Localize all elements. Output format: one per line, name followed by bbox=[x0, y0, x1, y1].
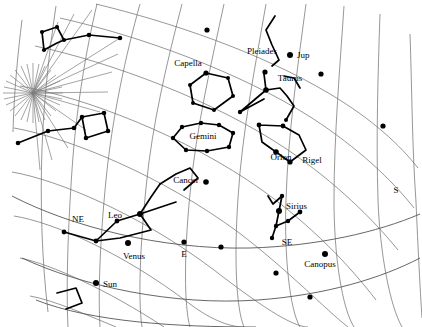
star-dot-betelgeuse bbox=[257, 123, 262, 128]
star-dot bbox=[62, 230, 67, 235]
star-dot bbox=[106, 129, 111, 134]
star-dot bbox=[307, 294, 312, 299]
star-dot bbox=[184, 148, 188, 152]
label-orion: Orion bbox=[271, 152, 292, 162]
star-dot bbox=[205, 149, 209, 153]
constellation-figures bbox=[18, 16, 306, 309]
constellation-ursa-major bbox=[18, 113, 108, 143]
star-dot-canopus bbox=[322, 251, 328, 257]
star-dot bbox=[171, 136, 175, 140]
label-leo: Leo bbox=[108, 210, 122, 220]
star-dot bbox=[318, 71, 323, 76]
star-dot bbox=[87, 33, 92, 38]
star-dot bbox=[226, 76, 230, 80]
star-dot bbox=[94, 239, 99, 244]
constellation-cassiopeia bbox=[42, 27, 64, 50]
constellation-cassiopeia-arm bbox=[64, 35, 120, 40]
label-capella: Capella bbox=[174, 58, 202, 68]
star-dot bbox=[217, 123, 221, 127]
label-gemini: Gemini bbox=[190, 131, 217, 141]
star-dot bbox=[199, 121, 203, 125]
star-dot-aldebaran bbox=[263, 87, 269, 93]
label-taurus: Taurus bbox=[278, 73, 303, 83]
star-dot-venus bbox=[125, 240, 131, 246]
star-dot bbox=[62, 38, 66, 42]
label-sun: Sun bbox=[103, 279, 118, 289]
star-dot-regulus bbox=[137, 211, 143, 217]
star-dot bbox=[72, 126, 77, 131]
sky-chart: Capella Pleiades Jup Taurus Gemini Orion… bbox=[0, 0, 422, 327]
star-dot bbox=[380, 123, 385, 128]
star-dot bbox=[218, 244, 223, 249]
star-dot bbox=[280, 194, 284, 198]
star-dot bbox=[55, 25, 59, 29]
star-dot-pleiades bbox=[262, 69, 267, 74]
star-dot bbox=[281, 124, 286, 129]
star-dot bbox=[231, 94, 235, 98]
label-jupiter: Jup bbox=[297, 50, 310, 60]
direction-label-e: E bbox=[181, 249, 187, 259]
star-dot-cancer bbox=[203, 179, 209, 185]
star-dot bbox=[238, 110, 242, 114]
label-pleiades: Pleiades bbox=[247, 46, 277, 56]
star-dot bbox=[191, 101, 195, 105]
constellation-perseus bbox=[266, 16, 279, 66]
star-dot-sirius bbox=[276, 208, 282, 214]
star-dot bbox=[84, 136, 89, 141]
star-dot bbox=[270, 236, 274, 240]
star-dot bbox=[16, 141, 21, 146]
star-dot-sun bbox=[93, 280, 99, 286]
direction-label-ne: NE bbox=[72, 214, 84, 224]
object-labels: Capella Pleiades Jup Taurus Gemini Orion… bbox=[103, 46, 336, 289]
label-cancer: Cancer bbox=[173, 175, 198, 185]
label-venus: Venus bbox=[123, 251, 145, 261]
sky-chart-canvas: Capella Pleiades Jup Taurus Gemini Orion… bbox=[0, 0, 422, 327]
grid-altitude-lines bbox=[12, 4, 418, 327]
star-dot-jupiter bbox=[287, 52, 293, 58]
star-dot bbox=[80, 115, 85, 120]
constellation-corvus bbox=[57, 288, 82, 309]
star-dot bbox=[118, 36, 123, 41]
star-dot bbox=[42, 48, 46, 52]
star-dot bbox=[273, 270, 278, 275]
star-dot bbox=[46, 129, 51, 134]
star-dot bbox=[40, 30, 44, 34]
star-dot bbox=[284, 118, 288, 122]
direction-label-se: SE bbox=[282, 237, 293, 247]
star-dot bbox=[204, 27, 209, 32]
label-rigel: Rigel bbox=[302, 155, 322, 165]
label-sirius: Sirius bbox=[286, 201, 308, 211]
star-dot-capella bbox=[203, 70, 208, 75]
star-dot bbox=[286, 219, 290, 223]
direction-label-s: S bbox=[393, 185, 398, 195]
star-dot bbox=[188, 83, 192, 87]
star-dot bbox=[227, 145, 231, 149]
grid-azimuth-lines bbox=[13, 4, 422, 327]
label-canopus: Canopus bbox=[304, 259, 336, 269]
star-dot bbox=[181, 239, 186, 244]
star-dot bbox=[180, 125, 184, 129]
star-dot bbox=[231, 131, 235, 135]
star-dot bbox=[212, 108, 216, 112]
star-dot bbox=[102, 111, 107, 116]
star-dot bbox=[274, 224, 278, 228]
